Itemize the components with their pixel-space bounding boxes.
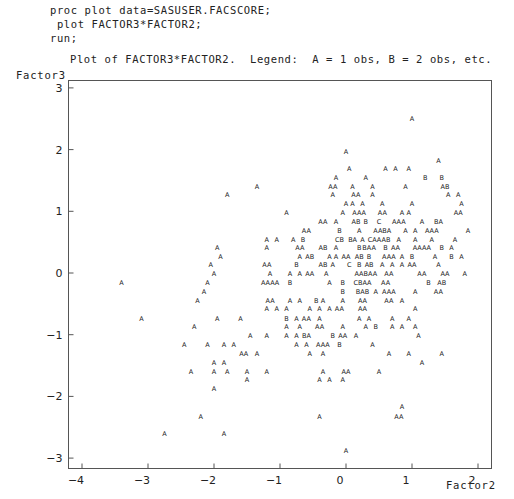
data-point: B	[340, 279, 344, 287]
data-point: AA	[318, 218, 328, 226]
data-point: A	[400, 261, 405, 269]
data-point: B	[439, 244, 443, 252]
data-point: A	[400, 297, 405, 305]
data-point: A	[344, 447, 349, 455]
data-point: AA	[305, 270, 315, 278]
data-point: A	[416, 332, 421, 340]
data-point: AA	[335, 305, 345, 313]
data-point: C	[347, 261, 352, 269]
x-tick-label: 0	[337, 474, 344, 487]
data-point: A	[390, 323, 395, 331]
data-point: A	[139, 315, 144, 323]
data-point: A	[400, 403, 405, 411]
data-point: A	[284, 209, 289, 217]
data-point: AA	[434, 288, 444, 296]
data-point: A	[400, 323, 405, 331]
data-point: A	[373, 288, 378, 296]
data-point: A	[413, 305, 418, 313]
data-point: AABA	[373, 227, 392, 235]
data-point: A	[340, 209, 345, 217]
data-point: B	[423, 174, 427, 182]
data-point: A	[212, 385, 217, 393]
data-point: A	[459, 253, 464, 261]
data-point: A	[215, 244, 220, 252]
data-point: A	[265, 332, 270, 340]
data-point: A	[420, 359, 425, 367]
data-point: A	[274, 305, 279, 313]
data-point: A	[274, 236, 279, 244]
y-axis: 3210−1−2−3	[46, 82, 73, 465]
data-point: A	[331, 261, 336, 269]
data-point: A	[288, 297, 293, 305]
data-point: CBAA	[353, 279, 372, 287]
data-point: A	[334, 218, 339, 226]
data-point: A	[360, 200, 365, 208]
data-point: A	[354, 332, 359, 340]
data-point: A	[265, 244, 270, 252]
data-point: A	[294, 315, 299, 323]
y-tick-label: 0	[56, 267, 63, 280]
data-point: B	[284, 315, 288, 323]
data-point: AA	[338, 332, 348, 340]
data-points: AAAAAAAAABBAAAAAAABAAAAAAAAAAAAAAAAAAAAA…	[119, 115, 471, 455]
data-point: A	[340, 376, 345, 384]
data-point: B	[294, 261, 298, 269]
data-point: A	[182, 341, 187, 349]
data-point: AA	[341, 368, 351, 376]
x-tick-label: 1	[403, 474, 410, 487]
data-point: A	[225, 191, 230, 199]
data-point: A	[205, 279, 210, 287]
data-point: A	[238, 315, 243, 323]
data-point: A	[294, 341, 299, 349]
data-point: A	[284, 305, 289, 313]
x-tick-label: −3	[134, 474, 150, 487]
data-point: AB	[318, 244, 327, 252]
data-point: A	[225, 368, 230, 376]
data-point: A	[344, 200, 349, 208]
data-point: A	[430, 236, 435, 244]
data-point: A	[298, 297, 303, 305]
data-point: CAAAB	[368, 236, 391, 244]
data-point: B	[331, 332, 335, 340]
data-point: AB	[355, 253, 364, 261]
data-point: A	[334, 174, 339, 182]
y-tick-label: −2	[46, 390, 62, 403]
y-tick-label: −1	[46, 329, 62, 342]
data-point: A	[218, 253, 223, 261]
data-point: AA	[302, 227, 312, 235]
data-point: CB	[335, 236, 344, 244]
data-point: A	[222, 430, 227, 438]
y-tick-label: 2	[56, 144, 63, 157]
data-point: A	[334, 253, 339, 261]
data-point: A	[357, 315, 362, 323]
data-point: A	[397, 236, 402, 244]
data-point: B	[340, 288, 344, 296]
data-point: A	[202, 288, 207, 296]
data-point: A	[189, 368, 194, 376]
data-point: A	[205, 341, 210, 349]
y-tick-label: 3	[56, 82, 63, 95]
data-point: B	[357, 244, 361, 252]
data-point: A	[192, 323, 197, 331]
plot-frame	[69, 81, 492, 469]
data-point: A	[410, 200, 415, 208]
data-point: A	[410, 115, 415, 123]
data-point: AA	[295, 244, 305, 252]
data-point: A	[449, 244, 454, 252]
data-point: A	[284, 332, 289, 340]
data-point: A	[350, 183, 355, 191]
data-point: A	[387, 350, 392, 358]
data-point: A	[162, 430, 167, 438]
data-point: A	[380, 261, 385, 269]
data-point: A	[222, 359, 227, 367]
data-point: A	[298, 270, 303, 278]
data-point: A	[446, 191, 451, 199]
data-point: A	[119, 279, 124, 287]
data-point: AABAA	[354, 270, 377, 278]
data-point: A	[413, 288, 418, 296]
data-point: A	[340, 297, 345, 305]
data-point: A	[459, 200, 464, 208]
data-point: A	[245, 368, 250, 376]
data-point: A	[370, 183, 375, 191]
data-point: A	[406, 315, 411, 323]
